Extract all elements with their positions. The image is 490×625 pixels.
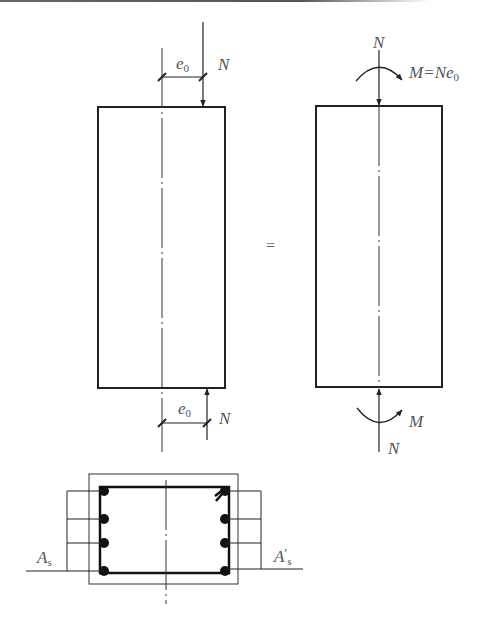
e0-subscript: 0 bbox=[186, 407, 192, 419]
e0-symbol: e bbox=[176, 54, 184, 73]
e0-symbol: e bbox=[178, 399, 186, 418]
e0-subscript: 0 bbox=[184, 62, 190, 74]
bottom-e0-label: e0 bbox=[178, 400, 191, 419]
left-steel-label: As bbox=[37, 549, 52, 568]
right-member bbox=[316, 50, 442, 452]
bottom-force-label: N bbox=[219, 410, 230, 427]
diagram-canvas bbox=[0, 0, 490, 625]
left-member bbox=[98, 22, 225, 452]
moment-expression: M=Ne bbox=[409, 63, 454, 82]
section-stirrup-rect bbox=[100, 487, 229, 573]
steel-area-subscript: s bbox=[47, 556, 51, 568]
right-bottom-moment-label: M bbox=[409, 413, 423, 430]
equals-sign: = bbox=[266, 238, 275, 254]
steel-area-symbol: A bbox=[274, 547, 284, 566]
section-outer-rect bbox=[89, 474, 238, 584]
stirrup-hook-icon bbox=[215, 489, 224, 501]
right-top-moment-label: M=Ne0 bbox=[409, 64, 459, 83]
steel-area-symbol: A bbox=[37, 548, 47, 567]
steel-area-subscript: s bbox=[287, 555, 291, 567]
right-top-force-label: N bbox=[373, 34, 384, 51]
top-force-label: N bbox=[218, 56, 229, 73]
top-e0-label: e0 bbox=[176, 55, 189, 74]
right-bottom-force-label: N bbox=[388, 440, 399, 457]
moment-subscript: 0 bbox=[454, 71, 460, 83]
right-steel-label: A′s bbox=[274, 546, 292, 567]
cross-section bbox=[26, 474, 303, 604]
